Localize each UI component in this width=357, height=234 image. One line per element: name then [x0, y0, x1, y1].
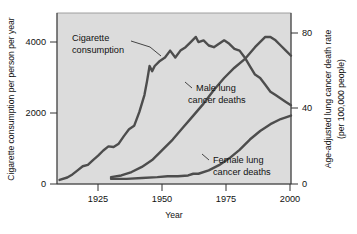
y-right-axis-title-line2: (per 100,000 people) — [336, 59, 346, 139]
annotation-female-line2: cancer deaths — [213, 167, 271, 177]
x-tick-label-1950: 1950 — [152, 194, 172, 204]
annotation-cigarette-line2: consumption — [72, 45, 124, 55]
x-tick-label-2000: 2000 — [280, 194, 300, 204]
y-left-tick-label-2000: 2000 — [26, 108, 46, 118]
x-tick-label-1925: 1925 — [88, 194, 108, 204]
annotation-cigarette-line1: Cigarette — [72, 33, 109, 43]
y-left-tick-label-4000: 4000 — [26, 37, 46, 47]
y-right-tick-label-0: 0 — [302, 179, 307, 189]
lung-cancer-cigarette-chart: 0 2000 4000 0 40 80 1925 1950 1975 2000 … — [0, 0, 357, 234]
y-right-tick-label-40: 40 — [302, 103, 312, 113]
annotation-female-line1: Female lung — [213, 155, 264, 165]
x-tick-label-1975: 1975 — [216, 194, 236, 204]
y-left-axis-title: Cigarette consumption per person per yea… — [6, 17, 16, 181]
y-right-axis-title-line1: Age-adjusted lung cancer death rate — [323, 30, 333, 169]
annotation-male-line1: Male lung — [196, 83, 236, 93]
annotation-male-line2: cancer deaths — [188, 95, 246, 105]
y-right-tick-label-80: 80 — [302, 28, 312, 38]
x-axis-title: Year — [165, 210, 183, 220]
y-left-tick-label-0: 0 — [41, 179, 46, 189]
